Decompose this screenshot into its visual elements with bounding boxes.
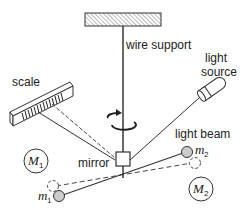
rotation-arrow-icon [108,109,136,130]
M1-subscript: 1 [39,161,44,170]
reflected-beam-solid [38,112,115,160]
mirror-label: mirror [78,156,109,170]
mirror-object [116,152,130,166]
reflected-beam-dashed [52,104,115,158]
ceiling-support [85,13,161,26]
m2-displaced [190,158,201,169]
light-beam-label: light beam [175,127,230,141]
m1-mass [54,191,65,202]
torsion-balance-diagram: wire support light source scale mirror l… [0,0,251,211]
M2-subscript: 2 [204,189,209,198]
m2-subscript: 2 [204,150,209,159]
light-source-object [196,75,228,102]
m1-subscript: 1 [47,196,52,205]
light-source-label-line1: light [205,51,228,65]
scale-label: scale [12,75,40,89]
m1-label: m [38,188,47,203]
m1-displaced [48,181,59,192]
m2-label: m [195,142,204,157]
wire-support-label: wire support [125,38,192,52]
m2-mass [182,147,193,158]
light-source-label-line2: source [201,65,237,79]
